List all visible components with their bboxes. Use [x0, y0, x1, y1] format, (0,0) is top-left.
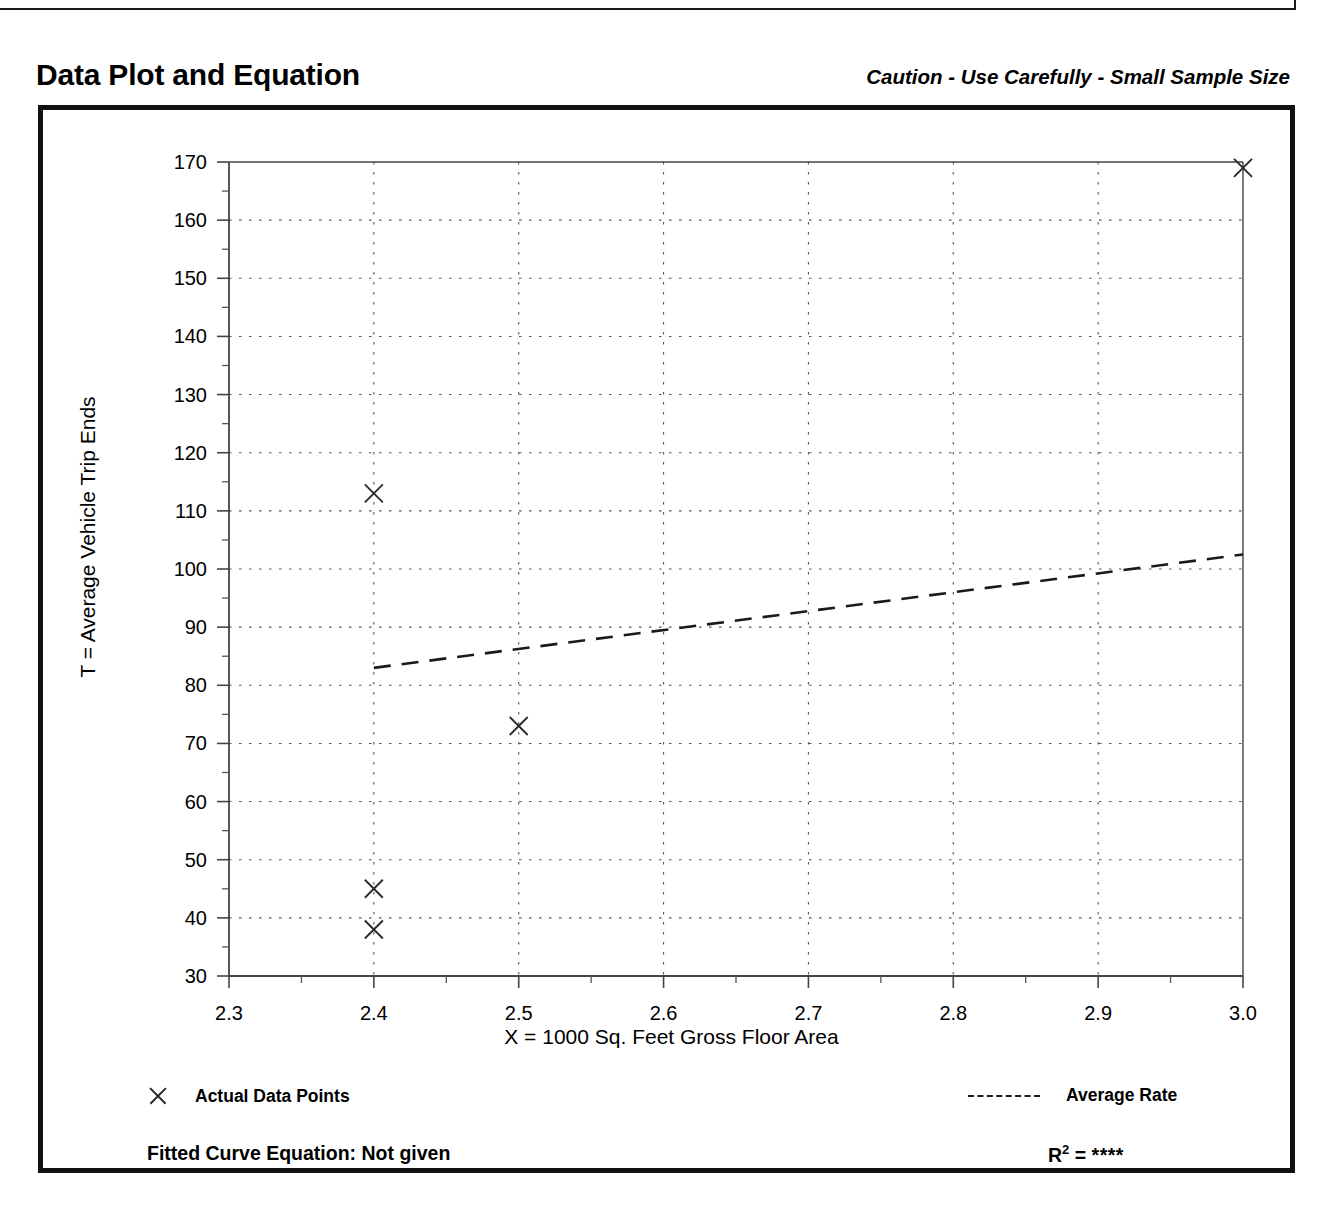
caution-note: Caution - Use Carefully - Small Sample S…: [866, 65, 1290, 89]
actual-data-point-markers: [365, 159, 1252, 939]
y-axis-tick-label: 150: [174, 267, 207, 289]
x-axis-tick-label: 2.9: [1084, 1002, 1112, 1024]
average-rate-trend-line: [374, 554, 1243, 667]
x-axis-tick-labels: 2.32.42.52.62.72.82.93.0: [215, 1002, 1257, 1024]
page-title: Data Plot and Equation: [36, 58, 360, 92]
y-axis-tick-label: 100: [174, 558, 207, 580]
legend-label-data-points: Actual Data Points: [195, 1086, 350, 1107]
r-squared-value: R2 = ****: [1048, 1142, 1124, 1167]
chart-panel-frame: 30405060708090100110120130140150160170 2…: [38, 105, 1295, 1173]
y-axis-tick-label: 160: [174, 209, 207, 231]
x-marker-icon: [147, 1085, 169, 1107]
y-axis-tick-label: 140: [174, 325, 207, 347]
y-axis-tick-label: 130: [174, 384, 207, 406]
x-axis-tick-label: 2.5: [505, 1002, 533, 1024]
y-axis-tick-labels: 30405060708090100110120130140150160170: [174, 151, 207, 987]
y-axis-tick-label: 80: [185, 674, 207, 696]
x-axis-tick-label: 2.3: [215, 1002, 243, 1024]
y-axis-tick-label: 30: [185, 965, 207, 987]
y-axis-tick-label: 170: [174, 151, 207, 173]
y-axis-tick-label: 90: [185, 616, 207, 638]
y-axis-title: T = Average Vehicle Trip Ends: [76, 337, 100, 737]
legend-label-average-rate: Average Rate: [1066, 1085, 1177, 1106]
x-axis-tick-label: 2.8: [939, 1002, 967, 1024]
trend-line-average-rate: [374, 554, 1243, 667]
fitted-curve-equation: Fitted Curve Equation: Not given: [147, 1142, 450, 1165]
data-point-marker-x: [365, 484, 383, 502]
y-axis-tick-label: 60: [185, 791, 207, 813]
r-squared-label: R: [1048, 1144, 1062, 1166]
r-squared-equals: =: [1069, 1144, 1091, 1166]
x-axis-title: X = 1000 Sq. Feet Gross Floor Area: [43, 1025, 1300, 1049]
y-axis-tick-label: 50: [185, 849, 207, 871]
page-top-rule: [0, 8, 1296, 10]
r-squared-stars: ****: [1092, 1144, 1124, 1166]
axis-ticks: [217, 162, 1243, 988]
y-axis-tick-label: 120: [174, 442, 207, 464]
x-axis-tick-label: 2.4: [360, 1002, 388, 1024]
x-axis-tick-label: 3.0: [1229, 1002, 1257, 1024]
chart-svg: 30405060708090100110120130140150160170 2…: [43, 110, 1300, 1178]
y-axis-tick-label: 110: [175, 500, 207, 522]
gridlines-major: [229, 162, 1243, 976]
legend-average-rate: Average Rate: [968, 1085, 1177, 1106]
y-axis-tick-label: 70: [185, 732, 207, 754]
page-top-rule-end-cap: [1294, 0, 1296, 10]
y-axis-tick-label: 40: [185, 907, 207, 929]
header: Data Plot and Equation Caution - Use Car…: [36, 58, 1290, 100]
dashed-line-icon: [968, 1095, 1040, 1097]
legend-actual-data-points: Actual Data Points: [147, 1085, 350, 1107]
plot-area: 30405060708090100110120130140150160170 2…: [43, 110, 1300, 1178]
x-axis-tick-label: 2.7: [795, 1002, 823, 1024]
x-axis-tick-label: 2.6: [650, 1002, 678, 1024]
